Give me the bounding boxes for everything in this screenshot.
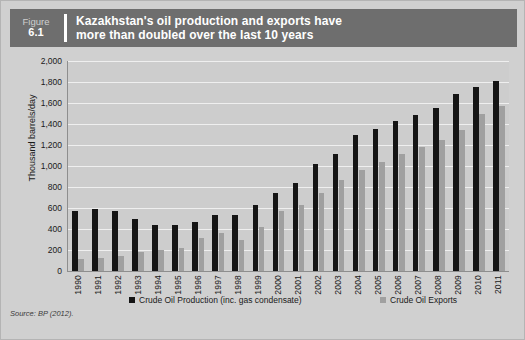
bar-production [373,129,379,271]
bar-exports [479,114,485,271]
bar-group [369,61,389,271]
bar-group [449,61,469,271]
x-axis-tick-label: 1996 [193,275,203,295]
header-divider [64,14,67,42]
bar-group [68,61,88,271]
chart-area: Thousand barrels/day 02004006008001,0001… [10,51,517,332]
bar-group [168,61,188,271]
x-axis-tick-label: 1994 [153,275,163,295]
bar-production [232,215,238,271]
bar-exports [239,240,245,272]
y-axis-tick-label: 400 [48,224,62,234]
y-axis-tick-label: 800 [48,182,62,192]
bar-production [172,225,178,271]
bar-production [273,193,279,271]
bar-production [72,211,78,271]
x-axis-tick-label: 2001 [293,275,303,295]
bar-group [268,61,288,271]
x-axis-tick-label: 2010 [473,275,483,295]
x-axis-tick-label: 2011 [493,275,503,294]
bar-group [208,61,228,271]
x-axis-tick-label: 2004 [353,275,363,295]
bar-production [473,87,479,271]
legend-item[interactable]: Crude Oil Exports [380,295,457,305]
x-axis-tick-label: 2002 [313,275,323,295]
x-axis-tick-label: 2003 [333,275,343,295]
x-axis-tick-label: 1995 [173,275,183,295]
x-axis-tick-label: 1993 [133,275,143,295]
bar-exports [499,106,505,271]
legend-item[interactable]: Crude Oil Production (inc. gas condensat… [129,295,302,305]
bar-production [92,209,98,271]
plot-area [67,61,509,272]
bar-exports [459,130,465,271]
bar-group [148,61,168,271]
bar-production [132,219,138,272]
bar-group [188,61,208,271]
legend-swatch-icon [129,297,135,303]
figure-title-line2: more than doubled over the last 10 years [76,28,342,42]
bar-production [293,183,299,271]
bar-exports [439,140,445,271]
bar-exports [98,258,104,271]
bar-group [289,61,309,271]
y-axis-tick-label: 1,000 [41,161,62,171]
x-axis-tick-label: 1991 [93,275,103,295]
bar-group [228,61,248,271]
y-axis-tick-label: 1,600 [41,98,62,108]
bar-production [453,94,459,271]
bar-group [429,61,449,271]
bar-exports [339,180,345,271]
bar-production [393,121,399,271]
source-note: Source: BP (2012). [10,309,74,318]
legend-label: Crude Oil Exports [390,295,457,305]
bar-production [212,215,218,271]
bar-group [128,61,148,271]
legend-label: Crude Oil Production (inc. gas condensat… [139,295,302,305]
x-axis-tick-label: 2005 [373,275,383,295]
bar-exports [299,205,305,271]
bar-exports [419,147,425,271]
figure-number-block: Figure 6.1 [10,17,64,39]
bar-exports [359,170,365,271]
legend-swatch-icon [380,297,386,303]
bar-group [108,61,128,271]
figure-container: Figure 6.1 Kazakhstan's oil production a… [0,0,525,340]
bar-group [409,61,429,271]
x-axis-tick-label: 1992 [113,275,123,295]
bar-exports [219,233,225,271]
y-axis-tick-label: 0 [57,266,62,276]
bar-exports [199,238,205,271]
y-axis-tick-label: 1,400 [41,119,62,129]
bar-series-group [68,61,509,271]
x-axis-tick-label: 2009 [453,275,463,295]
x-axis-tick-label: 2006 [393,275,403,295]
bar-exports [138,252,144,271]
x-axis-tick-label: 2008 [433,275,443,295]
x-axis-tick-label: 2007 [413,275,423,295]
bar-exports [259,227,265,271]
bar-production [192,222,198,271]
bar-exports [279,211,285,271]
bar-group [329,61,349,271]
x-axis-tick-label: 1997 [213,275,223,295]
bar-group [248,61,268,271]
bar-group [309,61,329,271]
bar-group [389,61,409,271]
bar-exports [379,162,385,271]
x-axis-tick-label: 1999 [253,275,263,295]
x-axis-tick-label: 2000 [273,275,283,295]
y-axis-tick-label: 600 [48,203,62,213]
y-axis-tick-labels: 02004006008001,0001,2001,4001,6001,8002,… [10,61,62,272]
bar-group [349,61,369,271]
bar-exports [118,256,124,271]
figure-title: Kazakhstan's oil production and exports … [76,14,342,42]
bar-group [469,61,489,271]
bar-group [88,61,108,271]
bar-production [253,205,259,271]
bar-exports [399,154,405,271]
bar-group [489,61,509,271]
y-axis-tick-label: 2,000 [41,56,62,66]
y-axis-tick-label: 1,800 [41,77,62,87]
bar-exports [158,250,164,271]
